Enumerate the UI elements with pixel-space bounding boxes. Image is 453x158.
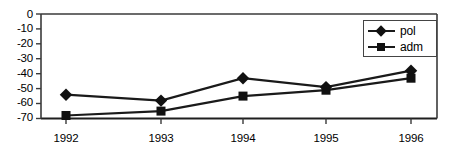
square-marker-icon <box>368 41 395 53</box>
line-chart: 0 -10 -20 -30 -40 -50 -60 -70 <box>0 0 453 158</box>
x-axis-tick-label: 1996 <box>399 132 424 144</box>
legend-label: pol <box>395 25 415 37</box>
x-axis-tick-label: 1995 <box>314 132 339 144</box>
x-axis-tick-label: 1994 <box>231 132 256 144</box>
chart-legend: pol adm <box>363 20 437 57</box>
legend-entry-adm: adm <box>364 39 436 55</box>
diamond-marker-icon <box>368 25 395 37</box>
legend-entry-pol: pol <box>364 23 436 39</box>
legend-label: adm <box>395 41 423 53</box>
x-axis-tick-label: 1993 <box>149 132 174 144</box>
x-axis-labels: 1992 1993 1994 1995 1996 <box>0 132 453 152</box>
x-axis-tick-label: 1992 <box>54 132 79 144</box>
